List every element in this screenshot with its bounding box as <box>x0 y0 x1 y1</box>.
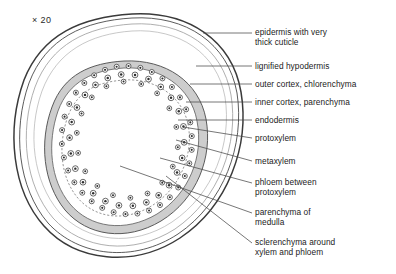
vascular-bundle <box>80 179 86 185</box>
vascular-bundle <box>60 128 65 133</box>
vascular-bundle <box>132 72 138 78</box>
vascular-bundle <box>146 76 152 82</box>
vascular-bundle <box>82 80 87 85</box>
leader-phloem <box>160 158 252 183</box>
magnification-label: × 20 <box>32 15 51 25</box>
vascular-bundle <box>167 195 172 200</box>
vascular-bundle <box>80 190 85 195</box>
vascular-bundle <box>111 193 116 198</box>
vascular-bundle <box>83 169 88 174</box>
label-sclerenchyma: sclerenchyma around xylem and phloem <box>255 238 335 257</box>
vascular-bundle <box>69 119 75 125</box>
label-epidermis: epidermis with very thick cuticle <box>255 28 327 47</box>
vascular-bundle <box>174 170 180 176</box>
vascular-bundle <box>118 72 124 78</box>
vascular-bundle <box>73 90 78 95</box>
label-endodermis: endodermis <box>255 116 299 126</box>
vascular-bundle <box>181 124 187 130</box>
vascular-bundle <box>92 73 97 78</box>
vascular-bundle <box>59 141 64 146</box>
vascular-bundle <box>114 64 119 69</box>
vascular-bundle <box>121 79 126 84</box>
vascular-bundle <box>167 106 172 111</box>
label-hypodermis: lignified hypodermis <box>255 62 329 72</box>
endodermis-sclerenchyma-band <box>45 61 208 234</box>
vascular-bundle <box>82 92 88 98</box>
vascular-bundle <box>155 91 160 96</box>
label-protoxylem: protoxylem <box>255 134 296 144</box>
sclerenchyma-band-fill <box>45 61 208 234</box>
vascular-bundle <box>100 205 105 210</box>
label-metaxylem: metaxylem <box>255 157 296 167</box>
vascular-bundle <box>177 95 182 100</box>
vascular-bundle <box>189 147 194 152</box>
vascular-bundle <box>175 145 180 150</box>
vascular-bundle <box>156 192 162 198</box>
vascular-bundle <box>189 134 194 139</box>
vascular-bundle <box>79 111 84 116</box>
vascular-bundle <box>123 212 128 217</box>
vascular-bundle <box>67 101 72 106</box>
vascular-bundle <box>66 168 71 173</box>
vascular-bundle <box>76 151 81 156</box>
vascular-bundle <box>104 84 109 89</box>
vascular-bundle <box>95 184 100 189</box>
vascular-bundle <box>72 166 78 172</box>
vascular-bundle <box>62 114 67 119</box>
vascular-bundle <box>168 95 174 101</box>
vascular-bundle <box>139 82 144 87</box>
vascular-bundle <box>72 180 77 185</box>
vascular-bundle <box>93 82 99 88</box>
caption-edge <box>10 266 386 273</box>
stem-cross-section-diagram <box>0 0 396 274</box>
vascular-bundle <box>145 191 150 196</box>
vascular-bundle <box>67 135 73 141</box>
vascular-bundle <box>116 203 122 209</box>
vascular-bundle <box>182 174 187 179</box>
vascular-bundle <box>138 65 143 70</box>
vascular-bundle <box>187 161 192 166</box>
vascular-bundle <box>130 203 136 209</box>
vascular-bundle <box>176 108 182 114</box>
vascular-bundle <box>89 95 94 100</box>
vascular-bundle <box>158 203 163 208</box>
label-phloem: phloem between protoxylem <box>255 178 317 197</box>
vascular-bundle <box>169 84 174 89</box>
label-medulla: parenchyma of medulla <box>255 208 311 227</box>
vascular-bundle <box>103 67 108 72</box>
vascular-bundle <box>126 64 131 69</box>
figure-canvas: × 20 epidermis with very thick cuticleli… <box>0 0 396 274</box>
vascular-bundle <box>143 199 149 205</box>
vascular-bundle <box>184 107 189 112</box>
vascular-bundle <box>174 125 179 130</box>
vascular-bundle <box>160 76 165 81</box>
vascular-bundle <box>135 211 140 216</box>
vascular-bundle-ring <box>59 64 194 217</box>
vascular-bundle <box>158 84 164 90</box>
vascular-bundle <box>68 151 74 157</box>
vascular-bundle <box>74 130 79 135</box>
vascular-bundle <box>90 190 96 196</box>
vascular-bundle <box>147 208 152 213</box>
vascular-bundle <box>74 105 80 111</box>
vascular-bundle <box>128 195 133 200</box>
label-outer-cortex: outer cortex, chlorenchyma <box>255 80 356 90</box>
vascular-bundle <box>61 155 66 160</box>
vascular-bundle <box>170 164 175 169</box>
vascular-bundle <box>111 210 116 215</box>
vascular-bundle <box>179 155 185 161</box>
vascular-bundle <box>105 75 111 81</box>
vascular-bundle <box>149 69 154 74</box>
vascular-bundle <box>103 198 109 204</box>
vascular-bundle <box>89 199 94 204</box>
label-inner-cortex: inner cortex, parenchyma <box>255 98 350 108</box>
vascular-bundle <box>188 120 193 125</box>
